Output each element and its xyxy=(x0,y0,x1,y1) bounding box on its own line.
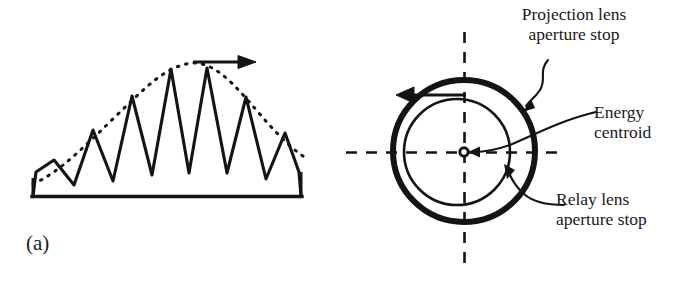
projection-lens-leader-line xyxy=(526,60,548,106)
panel-a: (a) xyxy=(0,0,340,282)
annotation-projection-lens-aperture-stop: Projection lens aperture stop xyxy=(476,5,672,44)
direction-arrow-icon xyxy=(193,56,256,69)
figure-container: (a) xyxy=(0,0,679,282)
annotation-line: centroid xyxy=(594,123,651,143)
panel-a-drawing xyxy=(0,0,340,282)
energy-centroid-dot xyxy=(460,148,468,156)
energy-centroid-leader-arrowhead xyxy=(468,147,480,158)
annotation-line: Energy xyxy=(594,103,651,123)
annotation-relay-lens-aperture-stop: Relay lens aperture stop xyxy=(556,190,647,229)
annotation-line: aperture stop xyxy=(476,25,672,45)
annotation-energy-centroid: Energy centroid xyxy=(594,103,651,142)
annotation-line: Relay lens xyxy=(556,190,647,210)
relay-lens-leader-arrowhead xyxy=(504,164,515,179)
panel-a-caption: (a) xyxy=(26,233,49,254)
oscillating-waveform xyxy=(33,68,301,196)
annotation-line: aperture stop xyxy=(556,210,647,230)
annotation-line: Projection lens xyxy=(476,5,672,25)
